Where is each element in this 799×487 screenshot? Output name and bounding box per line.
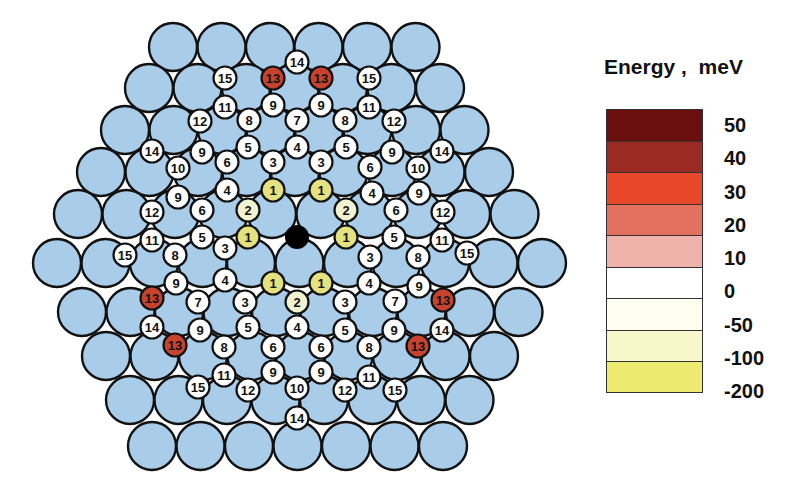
adsorption-site: 7 [187,291,210,314]
site-number: 13 [168,338,182,353]
adsorption-site: 12 [237,379,260,402]
substrate-atom [58,288,106,336]
adsorption-site: 9 [165,272,188,295]
site-number: 3 [366,250,373,265]
legend-label: -100 [724,342,764,375]
adsorption-site: 13 [310,67,333,90]
adsorption-site: 1 [310,272,333,295]
site-number: 13 [436,293,450,308]
site-number: 13 [411,339,425,354]
adsorption-site: 11 [213,364,236,387]
adsorption-site: 11 [358,366,381,389]
substrate-atom [491,190,539,238]
site-number: 11 [435,233,449,248]
adsorption-site: 9 [262,361,285,384]
adsorption-site: 14 [286,51,309,74]
site-number: 15 [118,248,132,263]
substrate-atom [343,23,391,71]
adsorption-site: 6 [191,199,214,222]
adsorption-site: 4 [216,179,239,202]
legend-label: 30 [724,176,764,209]
adsorption-site: 8 [238,109,261,132]
site-number: 14 [290,411,305,426]
adsorption-site: 12 [141,201,164,224]
legend-label: -200 [724,375,764,408]
site-number: 12 [145,205,159,220]
substrate-atom [371,422,419,470]
site-number: 3 [269,155,276,170]
adsorption-site: 10 [167,157,190,180]
adsorption-site: 6 [262,336,285,359]
site-number: 1 [269,183,276,198]
adsorption-site: 8 [407,246,430,269]
adsorption-site: 8 [358,336,381,359]
substrate-atom [446,376,494,424]
adsorption-site: 1 [335,226,358,249]
adsorption-site: 7 [286,109,309,132]
substrate-atom [198,23,246,71]
site-number: 4 [221,273,229,288]
adsorption-site: 1 [237,226,260,249]
adsorption-site: 14 [141,140,164,163]
adsorption-site: 2 [286,291,309,314]
substrate-atom [33,239,81,287]
substrate-atom [125,64,173,112]
site-number: 6 [198,203,205,218]
adsorption-site: 4 [214,269,237,292]
adsorption-site: 13 [164,334,187,357]
site-number: 5 [244,320,251,335]
legend-swatch [606,267,703,299]
site-number: 1 [317,183,324,198]
adsorption-site: 14 [286,407,309,430]
adsorption-site: 13 [432,289,455,312]
site-number: 8 [341,113,348,128]
site-number: 8 [220,340,227,355]
adsorption-site: 1 [262,179,285,202]
site-number: 15 [191,380,205,395]
site-number: 15 [388,383,402,398]
site-number: 3 [221,241,228,256]
adsorption-site: 9 [310,94,333,117]
site-number: 9 [172,276,179,291]
adsorption-site: 7 [384,290,407,313]
site-number: 10 [290,381,304,396]
site-number: 7 [391,294,398,309]
adsorption-site: 13 [141,287,164,310]
site-number: 14 [435,323,450,338]
legend-swatch [606,330,703,362]
substrate-atom [177,422,225,470]
site-number: 3 [341,295,348,310]
adsorption-site: 11 [358,96,381,119]
site-number: 1 [244,230,251,245]
site-number: 8 [245,113,252,128]
site-number: 15 [460,246,474,261]
adsorption-site: 5 [237,136,260,159]
site-number: 2 [293,295,300,310]
legend-label: -50 [724,309,764,342]
substrate-atom [225,422,273,470]
site-number: 8 [365,340,372,355]
adsorption-site: 9 [167,186,190,209]
site-number: 6 [317,340,324,355]
adsorption-site: 8 [164,244,187,267]
substrate-atom [392,23,440,71]
site-number: 9 [269,98,276,113]
site-number: 9 [390,323,397,338]
substrate-atom [495,288,543,336]
adsorption-site: 15 [456,242,479,265]
site-number: 12 [193,114,207,129]
center-adatom [285,225,309,249]
site-number: 11 [218,100,232,115]
site-number: 9 [269,365,276,380]
site-number: 5 [198,230,205,245]
adsorption-site: 11 [214,96,237,119]
site-number: 14 [290,55,305,70]
adsorption-site: 15 [114,244,137,267]
adsorption-site: 11 [431,229,454,252]
legend-label: 10 [724,242,764,275]
site-number: 15 [362,71,376,86]
substrate-atom [106,376,154,424]
site-number: 11 [362,370,376,385]
substrate-atom [128,422,176,470]
adsorption-site: 12 [383,110,406,133]
